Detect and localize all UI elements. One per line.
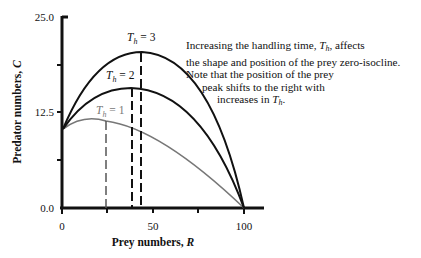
y-tick-label: 0.0 bbox=[40, 202, 54, 214]
x-tick-label: 0 bbox=[59, 220, 65, 232]
x-tick-label: 50 bbox=[148, 220, 160, 232]
annotation-line: the shape and position of the prey zero-… bbox=[186, 56, 400, 69]
annotation-line: Increasing the handling time, Th, affect… bbox=[186, 39, 400, 56]
label-th3: Th = 3 bbox=[127, 31, 156, 46]
x-tick-label: 100 bbox=[236, 220, 253, 232]
annotation-text: Increasing the handling time, Th, affect… bbox=[186, 39, 400, 110]
y-tick-label: 25.0 bbox=[35, 11, 55, 23]
annotation-line: increases in Th. bbox=[186, 93, 400, 110]
label-th1: Th = 1 bbox=[96, 104, 125, 119]
label-th2: Th = 2 bbox=[106, 69, 135, 84]
x-axis-title: Prey numbers, R bbox=[112, 236, 195, 249]
annotation-line: peak shifts to the right with bbox=[186, 81, 400, 94]
annotation-line: Note that the position of the prey bbox=[186, 68, 400, 81]
y-axis-title: Predator numbers, C bbox=[11, 60, 23, 164]
curve-th1 bbox=[63, 119, 244, 208]
y-tick-label: 12.5 bbox=[35, 106, 55, 118]
